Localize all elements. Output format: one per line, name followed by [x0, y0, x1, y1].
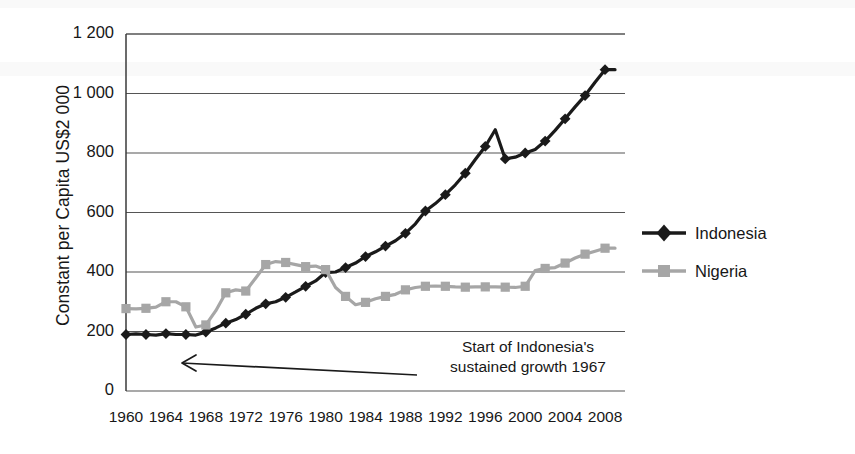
annotation-arrow — [182, 355, 417, 375]
annotation-label: Start of Indonesia's sustained growth 19… — [418, 337, 638, 377]
legend-item-indonesia[interactable]: Indonesia — [640, 214, 840, 252]
legend-label-indonesia: Indonesia — [695, 224, 767, 243]
annotation-line-1: Start of Indonesia's — [418, 337, 638, 357]
legend-swatch-nigeria — [640, 261, 688, 281]
chart-legend: Indonesia Nigeria — [640, 214, 840, 290]
annotation-line-2: sustained growth 1967 — [418, 357, 638, 377]
legend-swatch-indonesia — [640, 223, 688, 243]
legend-label-nigeria: Nigeria — [695, 262, 747, 281]
legend-item-nigeria[interactable]: Nigeria — [640, 252, 840, 290]
chart-container: Constant per Capita US$2 000 02004006008… — [0, 0, 855, 454]
data-series-layer — [121, 64, 615, 340]
